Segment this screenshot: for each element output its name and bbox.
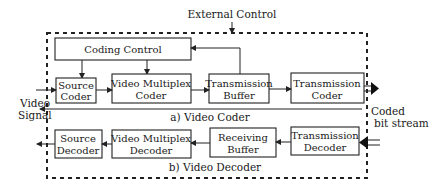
rx-buffer-line2: Buffer: [227, 144, 259, 155]
tx-buffer-line1: Transmission: [205, 78, 273, 89]
decoder-caption: b) Video Decoder: [169, 161, 262, 173]
output-arrowhead: [371, 82, 379, 95]
transmission-buffer-block: Transmission Buffer: [205, 74, 273, 103]
source-decoder-line2: Decoder: [57, 145, 100, 156]
rx-buffer-line1: Receiving: [218, 132, 268, 143]
video-signal-line2: Signal: [18, 109, 52, 121]
receiving-buffer-block: Receiving Buffer: [210, 128, 276, 157]
input-arrowhead: [359, 136, 368, 149]
video-multiplex-coder-block: Video Multiplex Coder: [110, 74, 191, 103]
source-decoder-block: Source Decoder: [55, 130, 102, 158]
transmission-decoder-block: Transmission Decoder: [291, 127, 359, 155]
external-control-label: External Control: [188, 8, 277, 20]
tx-decoder-line2: Decoder: [304, 142, 347, 153]
mux-coder-line1: Video Multiplex: [110, 78, 191, 89]
transmission-coder-block: Transmission Coder: [291, 73, 364, 103]
source-coder-block: Source Coder: [56, 78, 96, 103]
source-decoder-line1: Source: [60, 133, 96, 144]
mux-decoder-line1: Video Multiplex: [110, 133, 191, 144]
source-coder-line2: Coder: [61, 91, 92, 102]
tx-decoder-line1: Transmission: [291, 130, 359, 141]
video-codec-diagram: External Control Coding Control Source C…: [0, 0, 433, 190]
tx-coder-line2: Coder: [312, 90, 343, 101]
coded-bitstream-line2: bit stream: [374, 117, 429, 129]
video-signal-line1: Video: [19, 97, 50, 109]
coding-control-label: Coding Control: [84, 44, 161, 55]
tx-buffer-line2: Buffer: [223, 90, 255, 101]
mux-decoder-line2: Decoder: [130, 145, 173, 156]
tx-coder-line1: Transmission: [293, 78, 361, 89]
video-multiplex-decoder-block: Video Multiplex Decoder: [110, 130, 191, 158]
mux-coder-line2: Coder: [136, 90, 167, 101]
coder-caption: a) Video Coder: [170, 111, 250, 123]
buffer-feedback-arrow: [191, 48, 240, 74]
source-coder-line1: Source: [58, 80, 94, 91]
coded-bitstream-line1: Coded: [371, 105, 405, 117]
